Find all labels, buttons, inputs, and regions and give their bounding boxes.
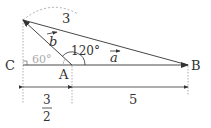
fraction-denominator: 2 [43,110,51,124]
length-3-label: 3 [62,11,70,26]
angle-120-label: 120° [71,44,100,58]
point-b-label: B [191,58,201,73]
vector-b-label: b [49,34,57,49]
angle-arc-60 [63,59,65,65]
vector-diagram: C A B 3 120° 60° b a 3 2 5 [0,0,211,128]
point-c-label: C [5,58,15,73]
length-5-label: 5 [129,92,137,107]
angle-60-label: 60° [32,53,52,66]
fraction-numerator: 3 [43,93,51,107]
vector-a-label: a [110,50,118,65]
right-angle-marker [23,61,27,65]
point-a-label: A [58,67,69,82]
